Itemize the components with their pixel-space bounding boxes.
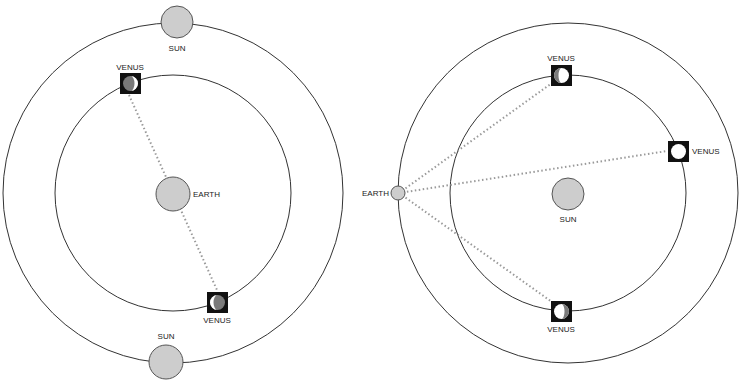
sun-bottom-label: SUN xyxy=(158,332,175,341)
venus-top xyxy=(551,65,572,86)
venus-bottom xyxy=(551,301,572,322)
sun-top xyxy=(161,6,193,38)
venus-phase-icon xyxy=(671,144,686,159)
sight-line-top xyxy=(399,83,552,193)
earth xyxy=(156,177,190,211)
venus-top-label: VENUS xyxy=(116,63,144,72)
sun-label: SUN xyxy=(560,215,577,224)
sun-bottom xyxy=(149,345,183,379)
geocentric-diagram: SUN SUN EARTH VENUS VENUS xyxy=(3,6,343,379)
sight-line-right xyxy=(399,151,667,193)
venus-bottom-label: VENUS xyxy=(547,325,575,334)
venus-top xyxy=(120,73,141,94)
venus-bottom-label: VENUS xyxy=(203,316,231,325)
venus-right-label: VENUS xyxy=(692,147,720,156)
sun-top-label: SUN xyxy=(169,44,186,53)
sight-line-bottom xyxy=(399,193,552,302)
earth xyxy=(391,186,405,200)
heliocentric-diagram: SUN EARTH VENUS VENUS VENUS xyxy=(362,23,738,363)
earth-label: EARTH xyxy=(362,189,389,198)
earth-label: EARTH xyxy=(193,190,220,199)
venus-right xyxy=(668,141,689,162)
orbit-diagrams: SUN SUN EARTH VENUS VENUS SUN xyxy=(0,0,747,388)
venus-bottom xyxy=(207,292,228,313)
sun xyxy=(552,178,584,210)
venus-top-label: VENUS xyxy=(547,54,575,63)
